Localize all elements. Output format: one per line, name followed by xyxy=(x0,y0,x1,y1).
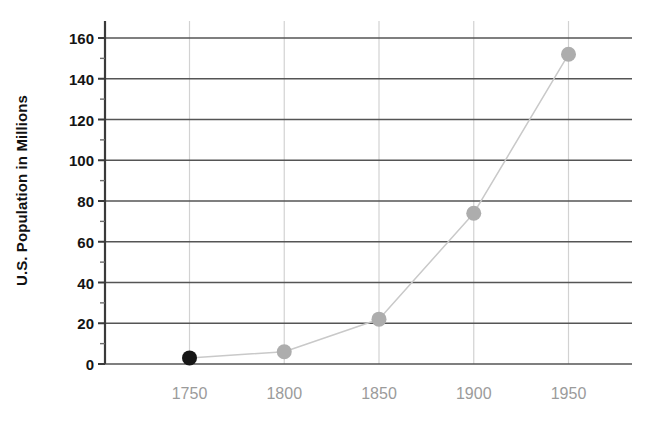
data-point-highlighted xyxy=(182,350,197,365)
data-point xyxy=(372,312,387,327)
plot-area xyxy=(0,0,661,425)
population-line-chart: U.S. Population in Millions 020406080100… xyxy=(0,0,661,425)
data-point xyxy=(277,344,292,359)
data-point xyxy=(561,47,576,62)
data-point xyxy=(466,206,481,221)
